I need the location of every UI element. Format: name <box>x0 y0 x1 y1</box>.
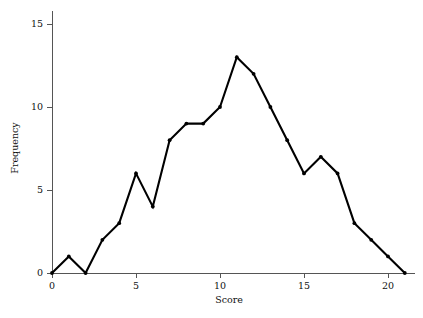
data-point <box>319 155 323 159</box>
data-point <box>201 122 205 126</box>
data-point <box>84 271 88 275</box>
data-point <box>336 172 340 176</box>
data-point <box>151 205 155 209</box>
data-point <box>285 138 289 142</box>
x-tick-label: 0 <box>49 280 55 291</box>
data-point <box>101 238 105 242</box>
y-axis-title: Frequency <box>9 122 20 174</box>
y-tick-label: 0 <box>37 267 43 278</box>
data-point <box>235 55 239 59</box>
data-point <box>67 255 71 259</box>
x-tick-label: 20 <box>382 280 394 291</box>
data-point <box>403 271 407 275</box>
axes-group <box>52 11 415 273</box>
y-tick-label: 15 <box>31 18 43 29</box>
x-tick-label: 15 <box>298 280 310 291</box>
data-point <box>134 172 138 176</box>
data-point <box>353 221 357 225</box>
y-tick-label: 5 <box>37 184 43 195</box>
y-tick-label: 10 <box>31 101 43 112</box>
data-point <box>168 138 172 142</box>
data-point <box>386 255 390 259</box>
data-point <box>252 72 256 76</box>
data-point <box>302 172 306 176</box>
data-points-group <box>50 55 407 275</box>
tick-labels-group: 05101505101520 <box>31 18 394 291</box>
line-chart-plot: 05101505101520 Score Frequency <box>0 0 423 318</box>
x-axis-title: Score <box>215 294 243 305</box>
x-tick-label: 5 <box>133 280 139 291</box>
data-point <box>218 105 222 109</box>
data-point <box>50 271 54 275</box>
tick-marks-group <box>47 24 388 278</box>
data-point <box>369 238 373 242</box>
x-tick-label: 10 <box>214 280 226 291</box>
data-point <box>117 221 121 225</box>
chart-container: 05101505101520 Score Frequency <box>0 0 423 318</box>
data-series-line <box>52 57 405 273</box>
data-point <box>269 105 273 109</box>
data-point <box>185 122 189 126</box>
